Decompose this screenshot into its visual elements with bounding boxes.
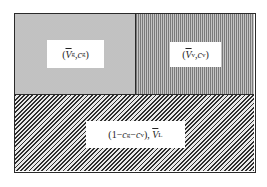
vapor-label: ( Vv , cv ) — [170, 42, 221, 67]
diagram-frame: ( Vg , cg ) ( Vv , cv ) (1− cg − cv ), V… — [14, 13, 256, 173]
gas-region: ( Vg , cg ) — [15, 14, 136, 95]
liquid-region: (1− cg − cv ), VL — [15, 95, 254, 171]
label-close: ), — [144, 129, 152, 140]
label-prefix: (1− — [108, 129, 122, 140]
gas-label: ( Vg , cg ) — [47, 40, 104, 68]
vapor-region: ( Vv , cv ) — [136, 14, 254, 95]
label-close-paren: ) — [86, 49, 89, 60]
label-close-paren: ) — [206, 49, 209, 60]
liquid-label: (1− cg − cv ), VL — [86, 121, 185, 148]
liquid-velocity-subscript: L — [158, 131, 162, 139]
